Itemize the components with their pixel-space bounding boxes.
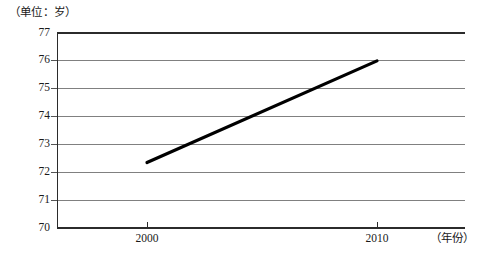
y-tick-label-76: 76 [0,54,50,66]
gridlines [57,60,465,200]
series-line-life-expectancy [147,61,377,163]
x-tick-label-2010: 2010 [366,233,389,245]
y-tick-label-77: 77 [0,27,50,39]
y-axis-ticks [51,60,57,200]
y-tick-label-75: 75 [0,82,50,94]
plot-area [0,0,494,259]
y-tick-label-70: 70 [0,222,50,234]
y-tick-label-71: 71 [0,194,50,206]
x-axis-title: （年份） [430,233,474,245]
y-axis-tick-labels: 77 76 75 74 73 72 71 70 [0,0,50,259]
y-tick-label-72: 72 [0,166,50,178]
x-tick-label-2000: 2000 [136,233,159,245]
y-tick-label-73: 73 [0,138,50,150]
x-axis-ticks [148,222,378,228]
y-tick-label-74: 74 [0,110,50,122]
life-expectancy-line-chart: （单位：岁） 77 76 75 74 73 72 71 70 2000 2010… [0,0,494,259]
